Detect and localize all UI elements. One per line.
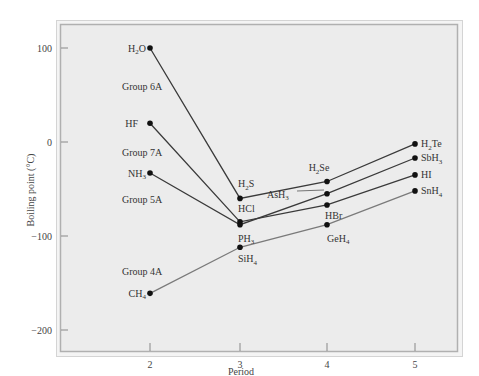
compound-label: HBr	[325, 210, 343, 221]
x-tick-label: 2	[148, 359, 153, 370]
y-tick-label: −100	[31, 231, 52, 242]
group-label: Group 6A	[122, 81, 163, 92]
data-point	[412, 141, 418, 147]
data-point	[237, 222, 243, 228]
compound-label: HCl	[238, 203, 255, 214]
data-point	[412, 188, 418, 194]
boiling-point-chart: 1000−100−200 2345 H2OH2SH2SeH2TeHFHClHBr…	[0, 0, 479, 376]
group-label: Group 4A	[122, 266, 163, 277]
plot-area	[61, 25, 458, 352]
group-label: Group 5A	[122, 194, 163, 205]
y-axis-title: Boiling point (°C)	[25, 154, 37, 227]
data-point	[237, 196, 243, 202]
data-point	[147, 170, 153, 176]
y-tick-label: 100	[37, 43, 52, 54]
group-label: Group 7A	[122, 147, 163, 158]
data-point	[147, 45, 153, 51]
x-tick-label: 5	[413, 359, 418, 370]
compound-label: HI	[421, 169, 432, 180]
x-axis-title: Period	[228, 366, 254, 376]
data-point	[412, 155, 418, 161]
y-tick-label: 0	[47, 137, 52, 148]
data-point	[147, 120, 153, 126]
data-point	[412, 172, 418, 178]
data-point	[237, 244, 243, 250]
y-tick-label: −200	[31, 325, 52, 336]
data-point	[147, 291, 153, 297]
data-point	[324, 179, 330, 185]
data-point	[324, 191, 330, 197]
compound-label: HF	[125, 118, 138, 129]
data-point	[324, 222, 330, 228]
data-point	[324, 202, 330, 208]
x-tick-label: 4	[325, 359, 330, 370]
